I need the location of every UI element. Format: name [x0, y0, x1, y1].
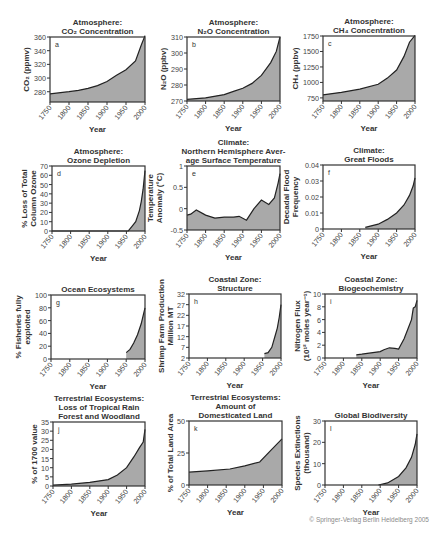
y-tick-label: 4 — [317, 328, 321, 337]
x-tick-label: 1950 — [385, 360, 402, 378]
panel-a: Atmosphere:CO₂ Concentrationa28030032034… — [22, 18, 148, 134]
x-tick-label: 1950 — [112, 104, 129, 122]
x-tick-label: 1800 — [58, 488, 75, 506]
x-tick-label: 1800 — [57, 233, 74, 251]
panel-title: Terrestrial Ecosystems:Loss of Tropical … — [54, 394, 144, 421]
x-tick-label: 2000 — [131, 233, 148, 251]
svg-text:Coastal Zone:: Coastal Zone: — [345, 275, 398, 284]
y-tick-label: 300 — [171, 49, 183, 58]
y-tick-label: 80 — [39, 304, 47, 313]
x-tick-label: 1950 — [113, 488, 130, 506]
svg-text:Terrestrial Ecosystems:: Terrestrial Ecosystems: — [190, 393, 280, 402]
panel-title: Coastal Zone:Structure — [209, 275, 262, 293]
x-tick-label: 1900 — [94, 233, 111, 251]
panel-letter: k — [194, 425, 198, 432]
svg-text:CO₂ Concentration: CO₂ Concentration — [62, 27, 134, 36]
svg-text:Great Floods: Great Floods — [344, 155, 394, 164]
svg-text:Domesticated Land: Domesticated Land — [199, 411, 273, 420]
y-tick-label: 1000 — [303, 78, 319, 87]
x-axis-label: Year — [227, 508, 244, 517]
x-tick-label: 1950 — [113, 233, 130, 251]
panel-h: Coastal Zone:Structureh27121722273217501… — [157, 275, 285, 390]
area-fill — [126, 308, 145, 359]
x-tick-label: 1900 — [367, 360, 384, 378]
copyright-credit: © Springer-Verlag Berlin Heidelberg 2005 — [309, 516, 429, 523]
x-tick-label: 1950 — [113, 361, 130, 379]
y-tick-label: 0.01 — [305, 209, 319, 218]
y-tick-label: 6 — [317, 316, 321, 325]
x-tick-label: 1800 — [194, 360, 211, 378]
x-tick-label: 1900 — [231, 487, 248, 505]
panel-l: Global Biodiversityl01020301750180018501… — [293, 411, 421, 517]
x-tick-label: 1900 — [231, 360, 248, 378]
x-tick-label: 1750 — [311, 360, 328, 378]
svg-text:Atmosphere:: Atmosphere: — [73, 18, 122, 27]
y-axis-label: Nitrogen Flux — [293, 300, 302, 352]
x-tick-label: 2000 — [131, 104, 148, 122]
panel-title: Terrestrial Ecosystems:Amount ofDomestic… — [190, 393, 280, 420]
svg-text:Loss of Tropical Rain: Loss of Tropical Rain — [59, 403, 140, 412]
y-axis-label: Species Extinctions — [293, 415, 302, 491]
x-tick-label: 1850 — [348, 487, 365, 505]
area-fill — [323, 35, 415, 101]
y-tick-label: 17 — [177, 322, 185, 331]
x-tick-label: 1750 — [39, 488, 56, 506]
panel-letter: i — [330, 298, 332, 305]
y-axis-label: CH₄ (ppbv) — [291, 47, 300, 89]
y-tick-label: 8 — [317, 303, 321, 312]
x-axis-label: Year — [361, 124, 378, 133]
x-tick-label: 1900 — [365, 103, 382, 121]
plot-frame — [52, 166, 145, 231]
x-tick-label: 1850 — [213, 487, 230, 505]
x-tick-label: 1950 — [248, 232, 265, 250]
y-tick-label: 300 — [34, 74, 46, 83]
y-tick-label: 0.03 — [305, 177, 319, 186]
x-tick-label: 2000 — [401, 231, 418, 249]
y-tick-label: 320 — [34, 60, 46, 69]
y-axis-label: % of Total Land Area — [166, 413, 175, 492]
svg-text:CH₄ Concentration: CH₄ Concentration — [333, 26, 405, 35]
svg-text:Atmosphere:: Atmosphere: — [74, 147, 123, 156]
x-tick-label: 1900 — [367, 487, 384, 505]
svg-text:Atmosphere:: Atmosphere: — [209, 18, 258, 27]
svg-text:Coastal Zone:: Coastal Zone: — [209, 275, 262, 284]
x-tick-label: 1750 — [36, 104, 53, 122]
x-tick-label: 1950 — [248, 103, 265, 121]
panel-title: Climate:Great Floods — [344, 146, 394, 164]
svg-text:Biogeochemistry: Biogeochemistry — [339, 284, 404, 293]
panel-k: Terrestrial Ecosystems:Amount ofDomestic… — [166, 393, 286, 517]
x-tick-label: 1900 — [229, 103, 246, 121]
x-tick-label: 1800 — [330, 487, 347, 505]
y-tick-label: 750 — [307, 94, 319, 103]
panel-letter: h — [194, 298, 198, 305]
panel-c: Atmosphere:CH₄ Concentrationc75010001250… — [291, 17, 418, 133]
y-tick-label: 60 — [40, 171, 48, 180]
svg-text:Amount of: Amount of — [216, 402, 256, 411]
y-tick-label: 1500 — [303, 47, 319, 56]
x-tick-label: 2000 — [403, 487, 420, 505]
svg-text:Ozone Depletion: Ozone Depletion — [67, 156, 130, 165]
x-tick-label: 1800 — [330, 360, 347, 378]
y-tick-label: 30 — [313, 417, 321, 426]
area-fill — [53, 429, 145, 486]
svg-text:Northern Hemisphere Aver-: Northern Hemisphere Aver- — [182, 147, 286, 156]
y-tick-label: 0.04 — [305, 161, 319, 170]
y-axis-label: % of 1700 value — [30, 424, 39, 484]
y-axis-label: Column Ozone — [29, 170, 38, 227]
x-axis-label: Year — [363, 381, 380, 390]
x-axis-label: Year — [361, 252, 378, 261]
x-tick-label: 2000 — [266, 232, 283, 250]
panel-title: Ocean Ecosystems — [61, 285, 135, 294]
y-tick-label: 35 — [41, 418, 49, 427]
panel-title: Coastal Zone:Biogeochemistry — [339, 275, 404, 293]
x-tick-label: 1800 — [55, 104, 72, 122]
x-tick-label: 1900 — [365, 231, 382, 249]
x-tick-label: 1850 — [346, 103, 363, 121]
x-tick-label: 1900 — [94, 361, 111, 379]
y-axis-label: Decadal Flood — [282, 170, 291, 225]
y-tick-label: 20 — [41, 445, 49, 454]
x-axis-label: Year — [90, 382, 107, 391]
panel-f: Climate:Great Floodsf00.010.020.030.0417… — [282, 146, 418, 261]
y-tick-label: 20 — [39, 342, 47, 351]
panel-letter: d — [57, 170, 61, 177]
